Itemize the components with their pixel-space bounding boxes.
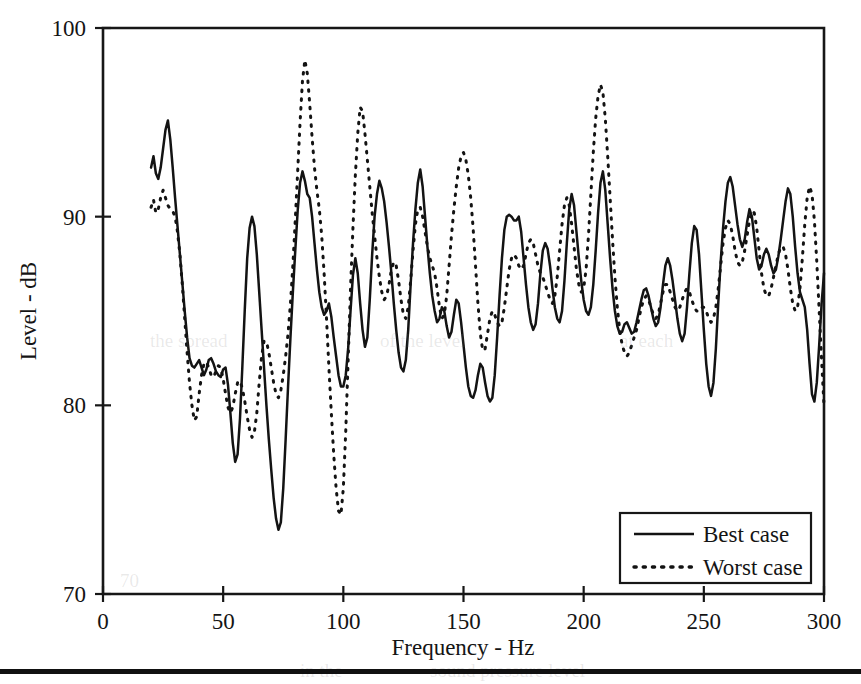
y-tick-label-90: 90 <box>63 205 86 230</box>
background-bleed-text: of the level <box>380 330 465 352</box>
x-tick-label-100: 100 <box>326 609 361 634</box>
x-tick-label-0: 0 <box>97 609 109 634</box>
background-bleed-text: the spread <box>150 330 228 352</box>
x-tick-label-250: 250 <box>687 609 722 634</box>
y-tick-label-70: 70 <box>63 582 86 607</box>
background-bleed-text: at each <box>620 330 673 352</box>
background-bleed-text: 70 <box>120 570 139 592</box>
plot-frame <box>103 28 824 594</box>
x-tick-label-50: 50 <box>212 609 235 634</box>
series-line-worst-case <box>151 60 824 515</box>
legend-label-best-case: Best case <box>703 522 789 547</box>
series-line-best-case <box>151 120 824 529</box>
y-axis-tick-labels: 708090100 <box>52 16 87 607</box>
figure-container: 050100150200250300 708090100 Frequency -… <box>0 0 861 684</box>
y-tick-label-100: 100 <box>52 16 87 41</box>
page-footer-rule <box>0 669 861 674</box>
y-tick-label-80: 80 <box>63 393 86 418</box>
x-tick-label-200: 200 <box>566 609 601 634</box>
x-tick-label-150: 150 <box>446 609 481 634</box>
x-axis-tick-labels: 050100150200250300 <box>97 609 841 634</box>
y-axis-title: Level - dB <box>16 262 41 360</box>
legend: Best case Worst case <box>620 513 811 583</box>
x-tick-label-300: 300 <box>807 609 842 634</box>
x-axis-title: Frequency - Hz <box>391 635 534 660</box>
legend-label-worst-case: Worst case <box>703 555 803 580</box>
